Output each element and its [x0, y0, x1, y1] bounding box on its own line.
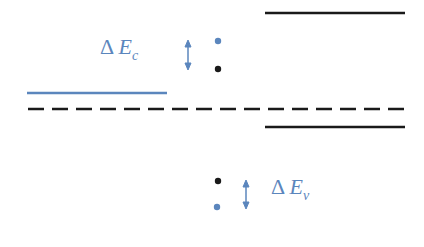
valence-subscript: v — [303, 188, 309, 203]
black-dot-upper — [215, 66, 221, 72]
blue-dot-upper — [215, 38, 221, 44]
energy-variable: E — [118, 34, 131, 59]
conduction-subscript: c — [132, 48, 138, 63]
black-dot-lower — [215, 178, 221, 184]
delta-ec-label: Δ Ec — [100, 34, 138, 64]
delta-ev-double-arrow-icon — [243, 180, 249, 209]
delta-ev-label: Δ Ev — [271, 174, 309, 204]
delta-ec-double-arrow-icon — [185, 40, 191, 70]
delta-symbol: Δ — [100, 34, 113, 59]
band-diagram — [0, 0, 424, 247]
delta-symbol: Δ — [271, 174, 284, 199]
blue-dot-lower — [214, 204, 220, 210]
energy-variable: E — [289, 174, 302, 199]
